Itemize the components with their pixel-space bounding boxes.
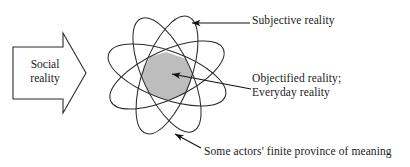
finite-province-label: Some actors' finite province of meaning <box>204 145 392 159</box>
social-reality-line-2: reality <box>22 72 68 86</box>
subjective-reality-text: Subjective reality <box>252 14 335 28</box>
diagram-canvas: Social reality Subjective reality Object… <box>0 0 410 167</box>
social-reality-line-1: Social <box>22 58 68 72</box>
finite-province-text: Some actors' finite province of meaning <box>204 145 392 159</box>
objectified-reality-label: Objectified reality; Everyday reality <box>252 72 341 99</box>
social-reality-arrow-label: Social reality <box>22 58 68 85</box>
subjective-reality-label: Subjective reality <box>252 14 335 28</box>
finite-province-leader <box>175 134 201 148</box>
objectified-reality-text-line-1: Objectified reality; <box>252 72 341 86</box>
objectified-reality-text-line-2: Everyday reality <box>252 86 341 100</box>
